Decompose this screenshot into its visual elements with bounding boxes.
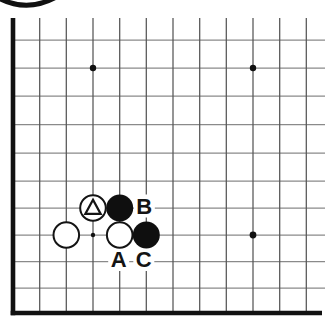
- black-stone-1: [106, 195, 133, 222]
- star-point-1: [250, 65, 256, 71]
- go-diagram-figure: BAC: [0, 0, 330, 328]
- board-grid: [11, 18, 325, 315]
- move-label-B[interactable]: B: [136, 194, 152, 219]
- white-stone-2: [54, 222, 80, 248]
- white-stone-3: [107, 222, 133, 248]
- figure-badge-arc: [0, 0, 58, 5]
- move-label-A[interactable]: A: [111, 247, 127, 272]
- star-point-2: [91, 233, 95, 237]
- go-board: BAC: [0, 0, 330, 328]
- move-label-C[interactable]: C: [136, 247, 152, 272]
- black-stone-4: [133, 222, 160, 249]
- star-point-0: [90, 65, 96, 71]
- figure-number-badge-arc: [0, 0, 58, 5]
- star-point-3: [250, 232, 257, 239]
